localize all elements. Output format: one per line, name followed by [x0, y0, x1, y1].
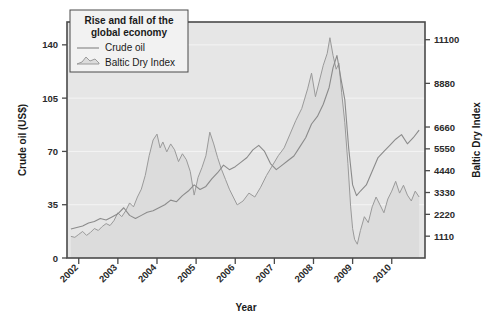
legend-label-baltic-dry-index: Baltic Dry Index: [105, 57, 175, 68]
left-axis-tick-label: 70: [47, 146, 58, 157]
x-axis-tick-label: 2003: [97, 262, 120, 285]
x-axis-tick-label: 2007: [253, 262, 276, 285]
x-axis-tick-label: 2010: [370, 262, 393, 285]
right-axis-tick-label: 2220: [434, 209, 455, 220]
left-axis-tick-label: 105: [42, 93, 59, 104]
left-axis-tick-label: 35: [47, 199, 58, 210]
x-axis-tick-label: 2009: [331, 262, 354, 285]
x-axis-title: Year: [235, 302, 256, 313]
x-axis-tick-label: 2004: [136, 261, 159, 284]
right-axis-title: Baltic Dry Index: [471, 102, 482, 178]
right-axis-tick-label: 5550: [434, 143, 455, 154]
x-axis: 200220032004200520062007200820092010: [57, 258, 393, 284]
legend-title-line2: global economy: [91, 27, 168, 38]
x-axis-tick-label: 2008: [292, 262, 315, 285]
left-axis-title: Crude oil (US$): [17, 104, 28, 176]
right-axis-tick-label: 4440: [434, 165, 455, 176]
chart-figure: 03570105140 1110222033304440555066608880…: [0, 0, 503, 320]
x-axis-tick-label: 2002: [57, 262, 80, 285]
left-axis-tick-label: 140: [42, 39, 58, 50]
x-axis-tick-label: 2005: [175, 261, 198, 284]
chart-svg: 03570105140 1110222033304440555066608880…: [0, 0, 503, 320]
legend: Rise and fall of the global economy Crud…: [70, 10, 188, 72]
legend-label-crude-oil: Crude oil: [105, 42, 145, 53]
right-axis-tick-label: 6660: [434, 122, 455, 133]
left-axis-tick-label: 0: [53, 253, 58, 264]
right-axis-tick-label: 3330: [434, 187, 455, 198]
x-axis-tick-label: 2006: [214, 262, 237, 285]
right-axis-tick-label: 11100: [434, 34, 459, 45]
left-axis: 03570105140: [42, 39, 67, 263]
right-axis: 111022203330444055506660888011100: [425, 34, 459, 241]
right-axis-tick-label: 1110: [434, 231, 454, 242]
right-axis-tick-label: 8880: [434, 78, 455, 89]
legend-title-line1: Rise and fall of the: [85, 15, 174, 26]
